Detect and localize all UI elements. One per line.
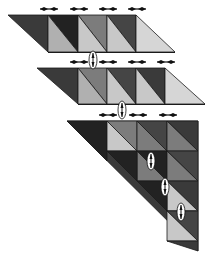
connector-5-icon xyxy=(177,203,185,221)
tiling-diagram xyxy=(0,0,209,258)
double-arrow-icon xyxy=(128,7,146,11)
right-end-triangle xyxy=(136,15,175,52)
connector-3-icon xyxy=(147,152,155,170)
double-arrow-icon xyxy=(128,60,146,64)
double-arrow-icon xyxy=(129,113,147,117)
left-parallelogram xyxy=(8,15,48,52)
connector-1-icon xyxy=(89,51,97,69)
strip-1 xyxy=(8,15,175,53)
hypotenuse-cell xyxy=(107,151,137,181)
double-arrow-icon xyxy=(40,7,58,11)
double-arrow-icon xyxy=(157,60,175,64)
double-arrow-icon xyxy=(99,60,117,64)
double-arrow-icon xyxy=(99,113,117,117)
strip-2 xyxy=(37,68,205,105)
double-arrow-icon xyxy=(70,7,88,11)
connector-4-icon xyxy=(161,178,169,196)
big-triangle-group xyxy=(67,121,198,251)
connector-2-icon xyxy=(118,101,126,119)
left-parallelogram xyxy=(37,68,78,104)
double-arrow-icon xyxy=(99,7,117,11)
right-end-triangle xyxy=(165,68,205,104)
strips-group xyxy=(8,15,205,105)
double-arrow-icon xyxy=(70,60,88,64)
diagram-svg xyxy=(0,0,209,258)
triangle-bottom-tip xyxy=(167,241,198,251)
big-triangle-left-wedge xyxy=(67,121,107,161)
double-arrow-icon xyxy=(159,113,177,117)
